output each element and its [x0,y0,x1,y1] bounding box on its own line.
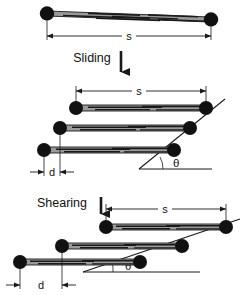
sliding-annotation: Sliding [73,51,121,72]
label-s-bottom: s [162,203,168,215]
panel-top-bundle: s [40,6,218,42]
fiber-bundle-bot-lower [20,259,140,265]
sliding-shearing-diagram: s Sliding s θ [0,0,246,295]
node-bot-center-left [55,239,69,253]
label-shearing: Shearing [37,196,87,210]
fiber-bundle-top [47,11,211,22]
node-mid-upper-left [69,101,83,115]
node-mid-lower-left [37,143,51,157]
fiber-bundle-mid-center [60,125,190,131]
figure-root: s Sliding s θ [0,0,246,295]
node-bot-lower-right [133,255,147,269]
label-d-bottom: d [38,279,44,291]
panel-bottom-shearing: s θ [6,203,240,291]
label-d-middle: d [49,166,55,178]
label-theta-middle: θ [173,157,179,169]
fiber-bundle-bot-upper [106,224,226,230]
label-sliding: Sliding [73,51,111,65]
node-mid-lower-right [167,143,181,157]
shearing-annotation: Shearing [37,196,101,214]
fiber-bundle-bot-center [62,243,182,249]
node-bot-center-right [175,239,189,253]
label-s-middle: s [136,85,142,97]
node-bot-upper-right [219,220,233,234]
node-bot-lower-left [13,255,27,269]
node-left-top [40,6,54,20]
node-bot-upper-left [99,220,113,234]
node-mid-upper-right [199,101,213,115]
panel-middle-sliding: s θ [30,85,225,178]
fiber-bundle-mid-lower [44,147,174,153]
angle-arc-middle [160,157,163,169]
fiber-bundle-mid-upper [76,105,206,111]
node-mid-center-left [53,121,67,135]
node-right-top [204,12,218,26]
label-s-top: s [126,30,132,42]
node-mid-center-right [183,121,197,135]
